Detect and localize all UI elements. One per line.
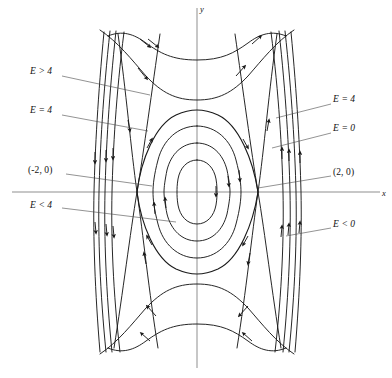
y-axis-label: y <box>200 4 204 14</box>
curve-E-eq-0-left-saddle-leg-a <box>118 34 158 348</box>
leader-pt-pos2 <box>258 176 331 188</box>
axes <box>12 8 380 368</box>
phase-portrait-canvas <box>0 0 392 378</box>
arrow-bottom-outer <box>243 333 252 341</box>
arrow-bottom-inner <box>147 306 156 316</box>
arrow-right-1-up-b <box>299 222 300 233</box>
label-e-equals-0: E = 0 <box>333 123 355 133</box>
label-e-equals-4-right: E = 4 <box>333 94 355 104</box>
arrow-right-2-up-b <box>288 224 289 235</box>
leader-e-eq-4-l <box>62 115 148 131</box>
arrow-top-outer <box>140 39 150 47</box>
arrow-bottom-inner-r <box>239 306 248 316</box>
leader-e-gt-4 <box>62 76 150 95</box>
leader-e-eq-4-r <box>276 104 331 118</box>
x-axis-label: x <box>382 188 386 198</box>
arrow-top-inner <box>138 68 147 79</box>
leader-e-lt-0 <box>286 228 331 236</box>
phase-portrait-figure: E > 4 E = 4 (-2, 0) E < 4 E = 4 E = 0 (2… <box>0 0 392 378</box>
label-e-less-than-4: E < 4 <box>30 200 52 210</box>
label-e-greater-than-4: E > 4 <box>30 66 52 76</box>
arrow-orbit-outer-right <box>239 170 240 181</box>
label-e-equals-4-left: E = 4 <box>30 105 52 115</box>
arrow-left-1-down-b <box>95 222 96 233</box>
leader-e-lt-4 <box>62 208 176 222</box>
label-point-2-0: (2, 0) <box>333 167 354 177</box>
label-point-negative-2-0: (-2, 0) <box>28 165 52 175</box>
arrow-bottom-outer-l <box>141 333 150 341</box>
curve-E-eq-0-right-saddle-leg-b <box>235 34 281 348</box>
arrow-saddle-right-out-top <box>267 120 269 131</box>
arrow-orbit-outer-left <box>154 203 155 214</box>
arrow-left-3-down-b <box>113 226 114 237</box>
label-e-less-than-0: E < 0 <box>333 219 355 229</box>
arrow-left-2-down-b <box>106 224 107 235</box>
arrow-right-3-up-b <box>281 226 282 237</box>
